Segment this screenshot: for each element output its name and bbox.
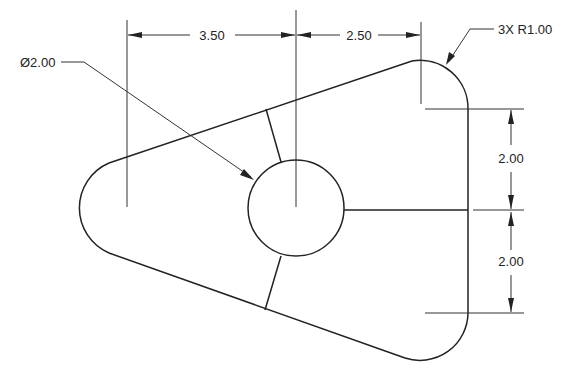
- spoke-lower: [265, 256, 281, 310]
- diameter-label: Ø2.00: [20, 55, 55, 70]
- arrowhead-icon: [128, 32, 142, 38]
- arrowhead-icon: [508, 110, 514, 124]
- part-drawing: 3.50 2.50 2.00 2.00 Ø2.00 3X R1.00: [0, 0, 572, 380]
- bottom-edge: [109, 253, 405, 358]
- dimension-vertical-lower: 2.00: [498, 212, 523, 312]
- dim-label-lower-2-00: 2.00: [498, 254, 523, 269]
- spoke-upper: [266, 109, 281, 162]
- dimension-2-50: 2.50: [297, 28, 420, 43]
- radius-callout: 3X R1.00: [446, 22, 552, 65]
- dim-label-2-50: 2.50: [346, 28, 371, 43]
- extension-lines: [127, 10, 524, 313]
- dimension-vertical-upper: 2.00: [498, 110, 523, 209]
- arrowhead-icon: [508, 212, 514, 226]
- arrowhead-icon: [508, 298, 514, 312]
- dimension-3-50: 3.50: [128, 28, 295, 43]
- diameter-callout: Ø2.00: [20, 55, 254, 180]
- dim-label-3-50: 3.50: [199, 28, 224, 43]
- arrowhead-icon: [281, 32, 295, 38]
- arrowhead-icon: [297, 32, 311, 38]
- radius-label: 3X R1.00: [498, 22, 552, 37]
- spokes: [265, 109, 468, 310]
- arrowhead-icon: [508, 195, 514, 209]
- dim-label-upper-2-00: 2.00: [498, 151, 523, 166]
- arrowhead-icon: [406, 32, 420, 38]
- top-right-corner-arc: [412, 60, 468, 109]
- left-corner-arc: [79, 163, 109, 253]
- bottom-right-corner-arc: [405, 313, 468, 360]
- top-edge: [109, 61, 412, 163]
